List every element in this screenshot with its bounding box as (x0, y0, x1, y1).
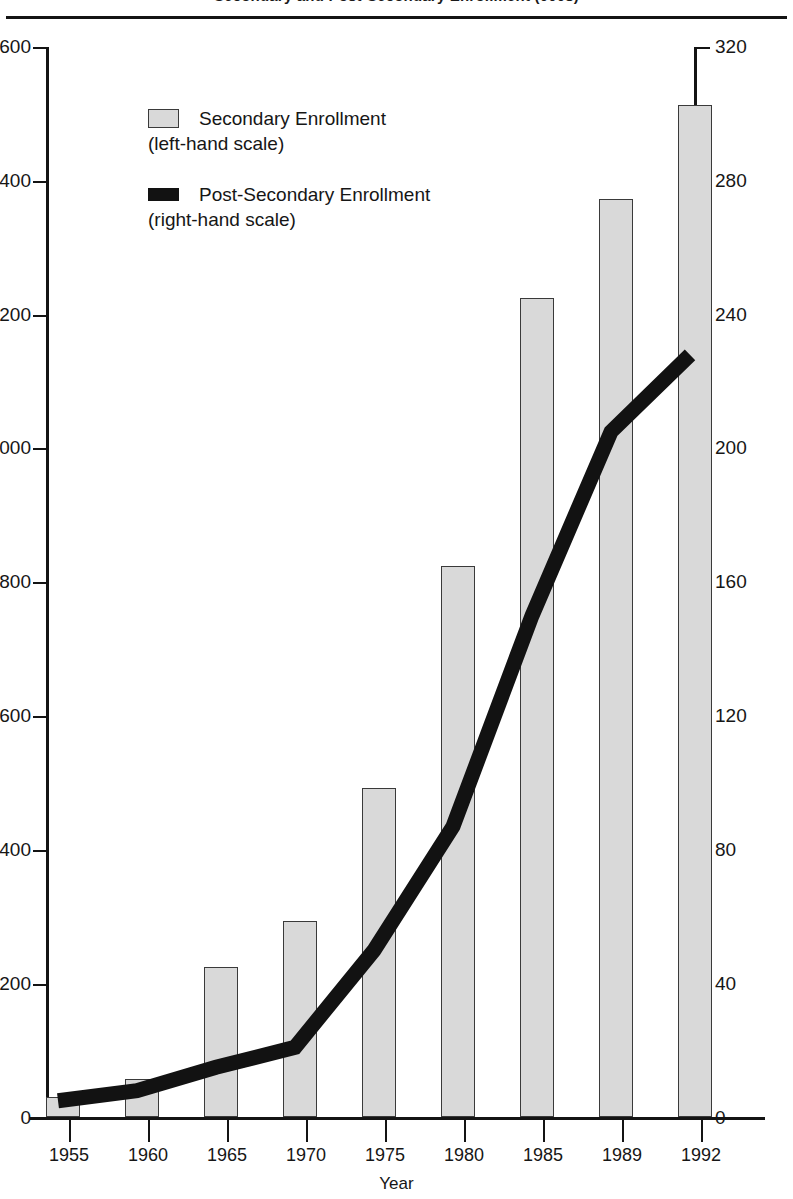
bar-1985 (520, 298, 554, 1118)
bar-1965 (204, 967, 238, 1118)
x-tick-label: 1955 (49, 1145, 89, 1166)
chart-title-cropped: Secondary and Post-Secondary Enrollment … (0, 0, 793, 9)
y-tick-label-right: 120 (715, 705, 747, 727)
header-rule (6, 16, 787, 19)
x-tick (701, 1120, 703, 1142)
chart-legend: Secondary Enrollment (left-hand scale) P… (148, 106, 448, 258)
bar-1980 (441, 566, 475, 1118)
legend-label-post-secondary: Post-Secondary Enrollment (199, 184, 430, 205)
bar-1970 (283, 921, 317, 1117)
y-tick-label-left: 1,000 (0, 437, 31, 459)
legend-label-secondary: Secondary Enrollment (199, 108, 386, 129)
x-tick-label: 1970 (286, 1145, 326, 1166)
x-tick (227, 1120, 229, 1142)
y-tick-label-right: 280 (715, 170, 747, 192)
y-tick-left (33, 984, 46, 986)
y-tick-label-right: 80 (715, 839, 736, 861)
x-tick (543, 1120, 545, 1142)
legend-item-post-secondary: Post-Secondary Enrollment (right-hand sc… (148, 182, 448, 232)
y-tick-label-left: 400 (0, 839, 31, 861)
bar-1955 (46, 1097, 80, 1117)
y-tick-left (33, 315, 46, 317)
legend-sublabel-post-secondary: (right-hand scale) (148, 207, 448, 232)
y-tick-label-right: 40 (715, 973, 736, 995)
y-tick-label-right: 160 (715, 571, 747, 593)
x-tick-label: 1975 (365, 1145, 405, 1166)
y-tick-label-left: 1,200 (0, 304, 31, 326)
y-tick-left (33, 47, 46, 49)
legend-swatch-secondary-icon (148, 109, 179, 128)
legend-swatch-post-secondary-icon (148, 188, 179, 201)
x-tick-label: 1960 (128, 1145, 168, 1166)
legend-sublabel-secondary: (left-hand scale) (148, 131, 448, 156)
x-tick-label: 1985 (523, 1145, 563, 1166)
y-tick-right (697, 47, 710, 49)
x-tick-label: 1989 (602, 1145, 642, 1166)
x-tick (622, 1120, 624, 1142)
legend-item-secondary: Secondary Enrollment (left-hand scale) (148, 106, 448, 156)
y-tick-label-left: 800 (0, 571, 31, 593)
y-tick-left (33, 1118, 46, 1120)
bar-1989 (599, 199, 633, 1118)
y-tick-label-right: 200 (715, 437, 747, 459)
y-tick-left (33, 716, 46, 718)
y-axis-left (46, 47, 49, 1119)
x-axis-title: Year (0, 1174, 793, 1194)
y-tick-left (33, 850, 46, 852)
y-tick-label-left: 600 (0, 705, 31, 727)
y-tick-label-right: 0 (715, 1107, 726, 1129)
x-tick (69, 1120, 71, 1142)
bar-1960 (125, 1079, 159, 1117)
bar-1992 (678, 105, 712, 1117)
y-tick-label-left: 1,600 (0, 36, 31, 58)
x-tick (464, 1120, 466, 1142)
x-tick-label: 1992 (681, 1145, 721, 1166)
y-tick-left (33, 448, 46, 450)
x-tick (306, 1120, 308, 1142)
y-tick-label-left: 0 (20, 1107, 31, 1129)
y-tick-label-right: 240 (715, 304, 747, 326)
y-tick-label-left: 1,400 (0, 170, 31, 192)
y-tick-right (697, 1118, 710, 1120)
x-tick-label: 1980 (444, 1145, 484, 1166)
bar-1975 (362, 788, 396, 1117)
x-tick (148, 1120, 150, 1142)
y-tick-left (33, 181, 46, 183)
chart-page: Secondary and Post-Secondary Enrollment … (0, 0, 793, 1199)
x-tick (385, 1120, 387, 1142)
x-tick-label: 1965 (207, 1145, 247, 1166)
y-tick-left (33, 582, 46, 584)
y-tick-label-right: 320 (715, 36, 747, 58)
page-title: Secondary and Post-Secondary Enrollment … (0, 0, 793, 4)
y-tick-label-left: 200 (0, 973, 31, 995)
